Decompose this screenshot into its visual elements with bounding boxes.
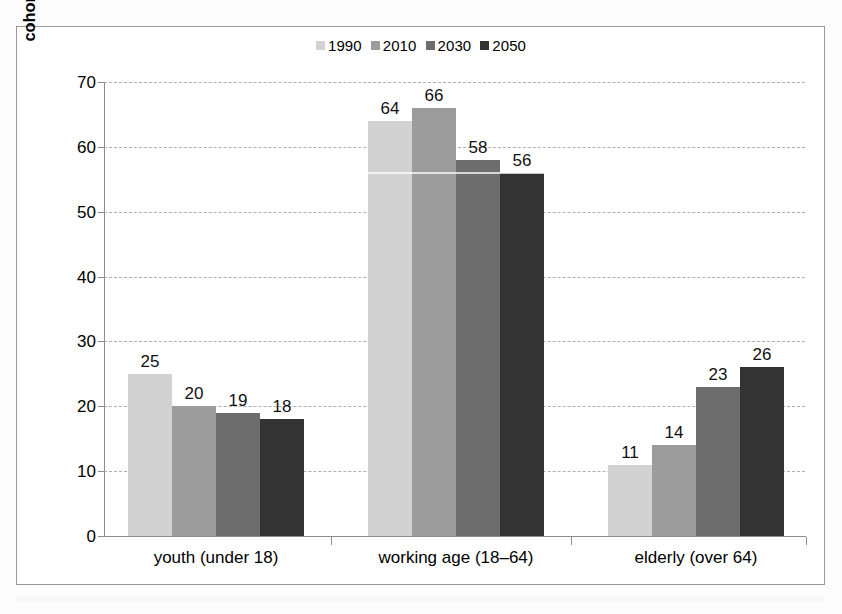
y-tick-label-50: 50 [50, 203, 96, 220]
y-tick-label-0: 0 [50, 528, 96, 545]
y-tick-mark-30 [98, 341, 104, 342]
bar-1990-youth-under-18-[interactable]: 25 [128, 82, 172, 536]
legend-item-1990[interactable]: 1990 [316, 38, 362, 53]
bar-rect [368, 121, 412, 536]
y-axis-title: cohort share of population (per cent) [20, 0, 42, 126]
scan-artifact-streak [352, 172, 552, 174]
bar-value-label: 66 [404, 87, 464, 104]
y-tick-mark-20 [98, 406, 104, 407]
x-axis-divider-3 [806, 537, 807, 545]
y-axis-line [104, 82, 105, 537]
bar-group-2: 64665856 [368, 82, 544, 536]
bar-value-label: 11 [600, 444, 660, 461]
bar-rect [172, 406, 216, 536]
scan-artifact-band [16, 596, 825, 602]
y-tick-mark-40 [98, 277, 104, 278]
y-tick-label-40: 40 [50, 268, 96, 285]
bar-value-label: 26 [732, 346, 792, 363]
bar-2030-youth-under-18-[interactable]: 19 [216, 82, 260, 536]
bar-rect [608, 465, 652, 536]
x-axis-category-label-1: youth (under 18) [86, 549, 346, 568]
x-axis-line [104, 536, 806, 537]
bar-1990-elderly-over-64-[interactable]: 11 [608, 82, 652, 536]
legend-item-2010[interactable]: 2010 [371, 38, 417, 53]
bar-value-label: 18 [252, 398, 312, 415]
x-axis-divider-1 [331, 537, 332, 545]
x-axis-category-label-3: elderly (over 64) [566, 549, 826, 568]
bar-value-label: 23 [688, 366, 748, 383]
bar-rect [696, 387, 740, 536]
bar-rect [260, 419, 304, 536]
bar-2010-youth-under-18-[interactable]: 20 [172, 82, 216, 536]
bar-2010-elderly-over-64-[interactable]: 14 [652, 82, 696, 536]
legend-swatch-1990 [316, 41, 325, 50]
legend-swatch-2050 [480, 41, 489, 50]
y-tick-mark-10 [98, 471, 104, 472]
y-tick-mark-70 [98, 82, 104, 83]
y-tick-label-10: 10 [50, 463, 96, 480]
y-axis-ticks: 706050403020100 [44, 0, 96, 614]
legend-swatch-2010 [371, 41, 380, 50]
bar-rect [500, 173, 544, 536]
bar-rect [456, 160, 500, 536]
legend-item-2030[interactable]: 2030 [426, 38, 472, 53]
bar-2050-youth-under-18-[interactable]: 18 [260, 82, 304, 536]
legend-swatch-2030 [426, 41, 435, 50]
legend-label-1990: 1990 [328, 38, 362, 53]
bar-group-1: 25201918 [128, 82, 304, 536]
bar-2050-working-age-18-64-[interactable]: 56 [500, 82, 544, 536]
legend-item-2050[interactable]: 2050 [480, 38, 526, 53]
y-tick-label-60: 60 [50, 138, 96, 155]
bar-rect [652, 445, 696, 536]
bar-value-label: 25 [120, 353, 180, 370]
bar-rect [740, 367, 784, 536]
bar-1990-working-age-18-64-[interactable]: 64 [368, 82, 412, 536]
legend-label-2050: 2050 [492, 38, 526, 53]
x-axis-divider-2 [571, 537, 572, 545]
chart-legend: 1990 2010 2030 2050 [0, 38, 842, 53]
bar-value-label: 56 [492, 152, 552, 169]
bars: 11142326 [608, 82, 784, 536]
legend-label-2010: 2010 [383, 38, 417, 53]
x-axis-category-label-2: working age (18–64) [326, 549, 586, 568]
bar-2030-elderly-over-64-[interactable]: 23 [696, 82, 740, 536]
y-tick-mark-50 [98, 212, 104, 213]
bar-group-3: 11142326 [608, 82, 784, 536]
y-tick-label-70: 70 [50, 74, 96, 91]
legend-label-2030: 2030 [438, 38, 472, 53]
bar-value-label: 14 [644, 424, 704, 441]
bars: 64665856 [368, 82, 544, 536]
y-tick-label-20: 20 [50, 398, 96, 415]
y-tick-mark-0 [98, 536, 104, 537]
bar-rect [216, 413, 260, 536]
bar-2030-working-age-18-64-[interactable]: 58 [456, 82, 500, 536]
bars: 25201918 [128, 82, 304, 536]
y-tick-label-30: 30 [50, 333, 96, 350]
chart-figure: 1990 2010 2030 2050 cohort share of popu… [0, 0, 842, 614]
bar-2050-elderly-over-64-[interactable]: 26 [740, 82, 784, 536]
y-tick-mark-60 [98, 147, 104, 148]
